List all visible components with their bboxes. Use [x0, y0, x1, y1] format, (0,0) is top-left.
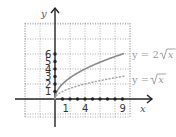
y-axis-dot	[53, 52, 56, 55]
curve-series-0	[55, 54, 124, 100]
curve-labels: y = 2xy = x	[131, 49, 176, 85]
x-axis-dot	[121, 97, 124, 100]
x-axis-dot	[83, 97, 86, 100]
y-tick-label: 6	[45, 49, 51, 60]
curve-label-series-1: y = x	[131, 74, 166, 85]
curve-series-1	[55, 76, 124, 99]
curves	[55, 54, 124, 100]
x-axis-dot	[61, 97, 64, 100]
grid	[25, 23, 130, 117]
tick-labels: 149123456	[45, 49, 126, 115]
y-axis-dot	[53, 75, 56, 78]
x-tick-label: 1	[63, 103, 69, 114]
x-tick-label: 9	[120, 103, 126, 114]
y-axis-dot	[53, 60, 56, 63]
y-axis-label: y	[40, 8, 47, 19]
tick-dots	[53, 52, 124, 100]
x-axis-dot	[68, 97, 71, 100]
x-axis-label: x	[140, 103, 146, 114]
x-axis-dot	[91, 97, 94, 100]
y-axis-dot	[53, 67, 56, 70]
curve-label-radicand: x	[168, 49, 174, 60]
x-axis-dot	[76, 97, 79, 100]
y-axis-dot	[53, 90, 56, 93]
chart: x y 149123456 y = 2xy = x	[0, 0, 176, 137]
y-axis-dot	[53, 82, 56, 85]
curve-label-text: y = 2	[131, 49, 159, 60]
curve-label-text: y =	[131, 74, 149, 85]
curve-label-radicand: x	[158, 74, 164, 85]
x-tick-label: 4	[82, 103, 88, 114]
x-axis-dot	[98, 97, 101, 100]
x-axis-dot	[106, 97, 109, 100]
x-axis-dot	[113, 97, 116, 100]
curve-label-series-0: y = 2x	[131, 49, 176, 60]
